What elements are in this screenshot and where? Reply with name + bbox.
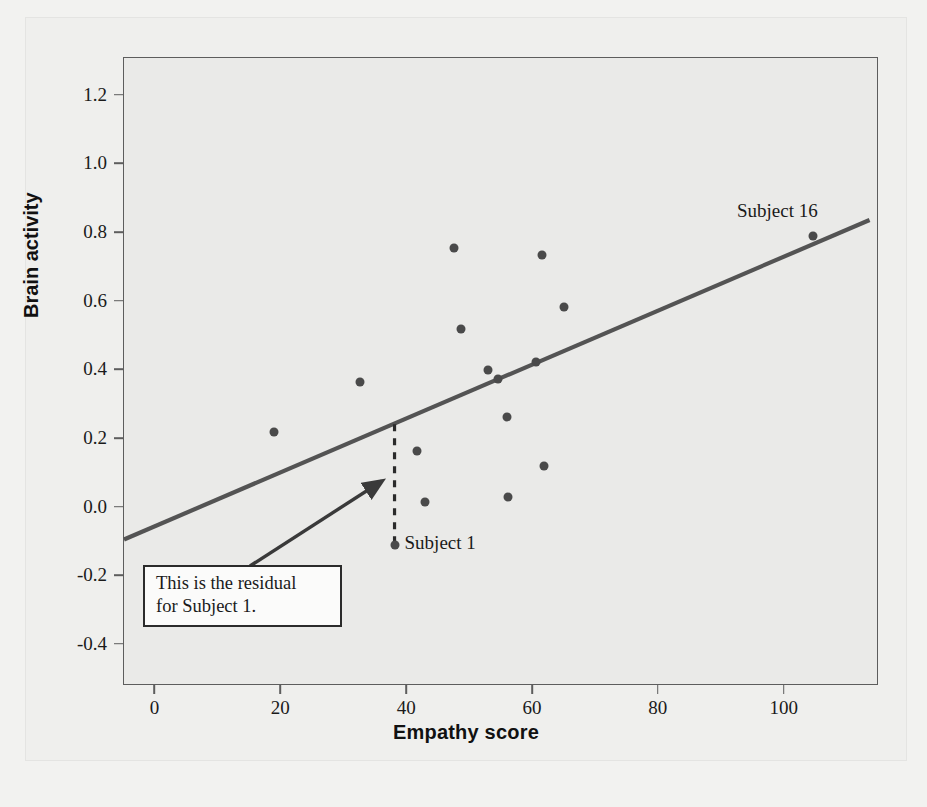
data-point	[456, 325, 465, 334]
y-tick-label: 1.2	[83, 84, 107, 106]
x-tick-mark	[657, 685, 659, 694]
x-tick-label: 0	[150, 697, 160, 719]
point-label: Subject 16	[737, 200, 818, 222]
y-tick-label: 0.8	[83, 221, 107, 243]
x-tick-mark	[783, 685, 785, 694]
data-point	[412, 446, 421, 455]
data-point	[532, 357, 541, 366]
x-tick-mark	[405, 685, 407, 694]
x-tick-label: 20	[271, 697, 290, 719]
data-point	[540, 462, 549, 471]
y-tick-mark	[114, 574, 123, 576]
data-point	[450, 244, 459, 253]
data-point	[390, 541, 399, 550]
residual-annotation-box: This is the residual for Subject 1.	[143, 565, 342, 627]
data-point	[483, 366, 492, 375]
figure-panel: Brain activity Empathy score -0.4-0.20.0…	[26, 18, 906, 760]
y-tick-label: -0.2	[77, 564, 107, 586]
y-tick-mark	[114, 643, 123, 645]
point-label: Subject 1	[405, 532, 476, 554]
data-point	[808, 232, 817, 241]
y-tick-label: 1.0	[83, 152, 107, 174]
y-tick-mark	[114, 368, 123, 370]
x-tick-label: 60	[522, 697, 541, 719]
y-tick-mark	[114, 231, 123, 233]
x-tick-mark	[531, 685, 533, 694]
y-tick-mark	[114, 437, 123, 439]
y-tick-label: 0.6	[83, 290, 107, 312]
data-point	[560, 302, 569, 311]
x-tick-mark	[279, 685, 281, 694]
data-point	[420, 498, 429, 507]
annotation-line-2: for Subject 1.	[156, 595, 331, 618]
y-tick-label: 0.0	[83, 496, 107, 518]
annotation-line-1: This is the residual	[156, 572, 331, 595]
data-point	[502, 412, 511, 421]
y-tick-mark	[114, 94, 123, 96]
y-tick-mark	[114, 506, 123, 508]
y-tick-mark	[114, 163, 123, 165]
y-tick-label: 0.2	[83, 427, 107, 449]
x-tick-label: 80	[648, 697, 667, 719]
y-tick-label: -0.4	[77, 633, 107, 655]
y-tick-mark	[114, 300, 123, 302]
data-point	[355, 378, 364, 387]
data-point	[503, 493, 512, 502]
x-tick-label: 100	[769, 697, 798, 719]
y-tick-label: 0.4	[83, 358, 107, 380]
data-point	[538, 251, 547, 260]
data-point	[269, 428, 278, 437]
y-axis-title: Brain activity	[20, 192, 43, 318]
x-tick-mark	[154, 685, 156, 694]
x-axis-title: Empathy score	[26, 721, 906, 744]
data-point	[494, 374, 503, 383]
x-tick-label: 40	[397, 697, 416, 719]
